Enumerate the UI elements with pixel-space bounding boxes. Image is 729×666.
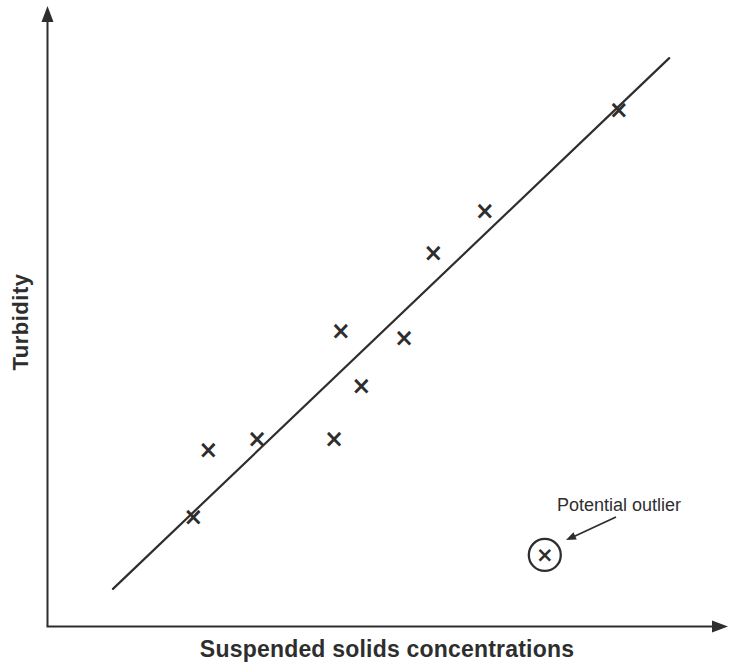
annotation-arrow (566, 517, 616, 540)
data-point-marker: × (183, 503, 203, 531)
data-point-marker: × (324, 425, 344, 453)
outlier-point-group: × (529, 539, 561, 571)
data-point-marker: × (351, 372, 371, 400)
annotation-arrow-line (574, 517, 616, 537)
scatter-plot-figure: ×××××××××× × Turbidity Suspended solids … (0, 0, 729, 666)
y-axis-arrowhead-icon (42, 6, 54, 22)
x-axis-label: Suspended solids concentrations (200, 636, 574, 663)
plot-canvas: ×××××××××× × (0, 0, 729, 666)
data-point-marker: × (423, 239, 443, 267)
data-point-marker: × (475, 197, 495, 225)
y-axis (42, 6, 54, 626)
y-axis-label: Turbidity (8, 274, 34, 371)
data-point-marker: × (247, 425, 267, 453)
data-point-marker: × (331, 317, 351, 345)
data-point-marker: × (609, 96, 629, 124)
outlier-x-marker: × (536, 543, 554, 567)
annotation-arrowhead-icon (566, 532, 577, 540)
data-point-marker: × (394, 324, 414, 352)
outlier-annotation-label: Potential outlier (557, 495, 681, 516)
data-point-marker: × (198, 436, 218, 464)
x-axis-arrowhead-icon (712, 621, 728, 633)
x-axis (47, 621, 729, 633)
